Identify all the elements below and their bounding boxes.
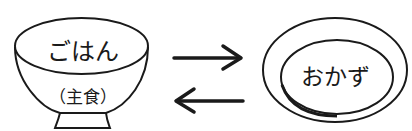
arrow-left-icon bbox=[176, 89, 243, 112]
arrow-right-icon bbox=[174, 46, 241, 69]
staple-food-label: （主食） bbox=[43, 83, 123, 108]
rice-label: ごはん bbox=[35, 32, 130, 67]
side-dish-label: おかず bbox=[289, 58, 381, 92]
